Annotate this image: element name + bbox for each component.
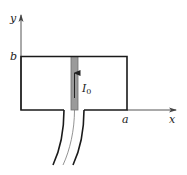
b-label: b <box>10 50 17 63</box>
y-axis-label: y <box>9 12 17 25</box>
current-label-subscript: 0 <box>86 87 91 96</box>
x-axis-label: x <box>169 113 176 126</box>
feed-line-left <box>53 110 64 165</box>
a-label: a <box>122 113 129 126</box>
feed-line-center <box>63 110 75 165</box>
diagram-canvas: y b a x I0 <box>0 0 187 175</box>
current-label: I0 <box>81 82 91 96</box>
